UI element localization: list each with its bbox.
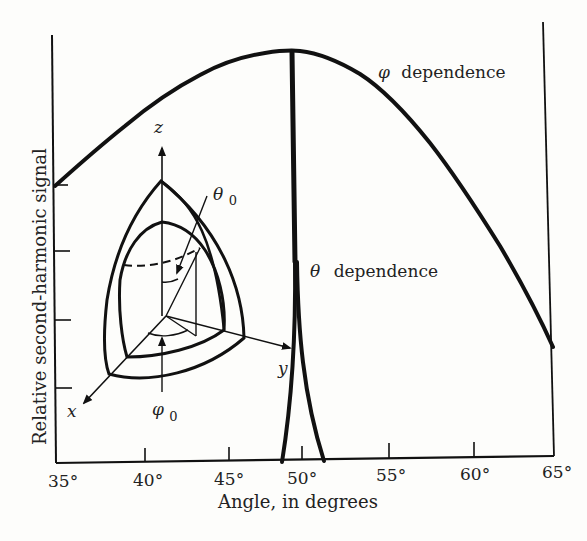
x-tick-label: 50°	[287, 468, 317, 488]
theta-symbol: θ	[310, 261, 320, 281]
chart: 35° 40° 45° 50° 55° 60° 65° Angle, in de…	[0, 0, 587, 541]
theta-dependence-curve	[282, 52, 324, 462]
inset-x-label: x	[67, 401, 77, 421]
theta-dependence-label: θ dependence	[310, 261, 438, 281]
inset-z-label: z	[153, 117, 164, 137]
x-axis	[56, 456, 554, 463]
inset-theta-arc	[162, 279, 178, 282]
inset-theta0-label: θ 0	[213, 184, 237, 208]
phi0-subscript: 0	[169, 409, 177, 424]
inset-phi-arc	[148, 330, 188, 336]
x-tick-label: 60°	[460, 464, 490, 484]
x-tick-label: 45°	[214, 469, 244, 489]
theta-label-text: dependence	[334, 261, 438, 281]
phi-dependence-label: φ dependence	[378, 62, 506, 82]
inset-phi0-label: φ 0	[152, 399, 178, 424]
x-tick-labels: 35° 40° 45° 50° 55° 60° 65°	[48, 462, 572, 491]
x-tick-label: 65°	[542, 462, 572, 482]
x-tick-label: 40°	[133, 470, 163, 490]
x-tick-label: 35°	[48, 471, 78, 491]
x-tick-label: 55°	[376, 465, 406, 485]
theta-peak-stem	[292, 52, 295, 262]
phi-symbol: φ	[378, 62, 390, 82]
phi-dependence-curve	[55, 51, 553, 347]
phi-label-text: dependence	[401, 62, 505, 82]
inset-x-axis	[84, 316, 166, 403]
inset-y-label: y	[277, 358, 288, 378]
x-axis-title: Angle, in degrees	[217, 491, 378, 512]
theta-right-leg	[297, 262, 324, 461]
phi0-symbol: φ	[152, 399, 164, 419]
y-axis-left	[52, 35, 56, 463]
inset-inner-shell	[119, 222, 224, 357]
inset-coordinate-diagram	[84, 148, 290, 403]
y-axis-title: Relative second-harmonic signal	[29, 148, 50, 445]
theta0-symbol: θ	[213, 184, 223, 204]
axes	[52, 22, 554, 463]
y-axis-right	[543, 22, 554, 456]
theta0-subscript: 0	[229, 193, 237, 208]
